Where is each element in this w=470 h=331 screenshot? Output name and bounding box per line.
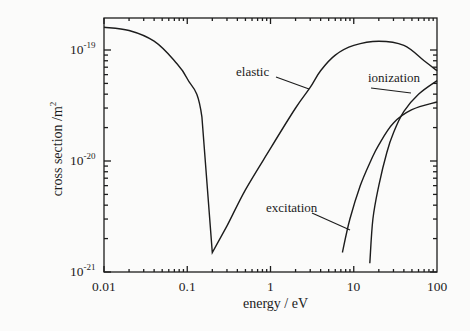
x-tick-label: 1 bbox=[267, 279, 274, 295]
y-tick-label: 10-20 bbox=[70, 151, 96, 169]
x-axis-label: energy / eV bbox=[243, 296, 308, 312]
x-tick-label: 0.1 bbox=[179, 279, 196, 295]
y-axis-label: cross section /m2 bbox=[48, 84, 66, 214]
x-tick-label: 0.01 bbox=[92, 279, 116, 295]
x-tick-label: 100 bbox=[427, 279, 447, 295]
y-tick-label: 10-21 bbox=[70, 262, 96, 280]
elastic-annotation: elastic bbox=[236, 64, 269, 80]
excitation-curve bbox=[342, 102, 437, 253]
x-tick-label: 10 bbox=[347, 279, 361, 295]
excitation-annotation: excitation bbox=[266, 200, 317, 216]
y-tick-label: 10-19 bbox=[70, 40, 96, 58]
plot-frame bbox=[104, 18, 437, 272]
ionization-annotation: ionization bbox=[368, 70, 420, 86]
ionization-curve bbox=[370, 81, 437, 264]
ionization-leader-line bbox=[371, 88, 411, 93]
excitation-leader-line bbox=[312, 213, 350, 230]
elastic-leader-line bbox=[276, 77, 309, 89]
elastic-curve bbox=[104, 27, 437, 252]
